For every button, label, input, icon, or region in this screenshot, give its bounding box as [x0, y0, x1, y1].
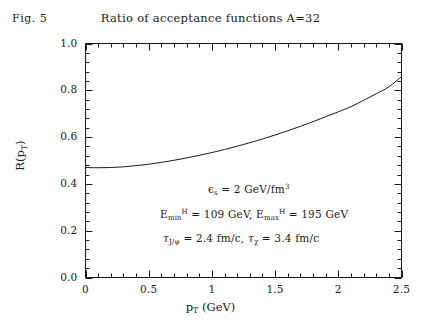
annotation-energy-density: ϵs = 2 GeV/fm3	[208, 182, 290, 197]
y-tick-label: 0.6	[36, 130, 78, 142]
annotation-energy-range: EminH = 109 GeV, EmaxH = 195 GeV	[160, 207, 348, 222]
y-tick-label: 0.2	[36, 224, 78, 236]
x-axis-label: pT (GeV)	[0, 300, 421, 315]
y-axis-label: R(pT)	[13, 121, 28, 191]
x-tick-label: 2	[318, 283, 358, 295]
annotation-emax-symbol: E	[256, 208, 264, 220]
y-axis-label-prefix: R(p	[13, 150, 27, 171]
x-axis-label-prefix: p	[186, 300, 193, 314]
y-axis-label-subscript: T	[20, 145, 29, 150]
annotation-emin-symbol: E	[160, 208, 168, 220]
y-tick-label: 0.8	[36, 83, 78, 95]
y-tick-label: 0.4	[36, 177, 78, 189]
x-tick-label: 1.5	[255, 283, 295, 295]
x-tick-label: 1	[192, 283, 232, 295]
annotation-epsilon-exponent: 3	[285, 182, 290, 191]
annotation-emax-value: = 195 GeV	[285, 208, 348, 220]
annotation-tau-chi-value: = 3.4 fm/c	[258, 232, 319, 244]
annotation-tau-jpsi-value: = 2.4 fm/c,	[180, 232, 248, 244]
annotation-tau-jpsi-subscript: J/ψ	[169, 237, 180, 246]
x-tick-label: 0.5	[129, 283, 169, 295]
x-tick-label: 0	[66, 283, 106, 295]
plot-area: 0.00.20.40.60.81.0 00.511.522.5 R(pT) pT…	[0, 0, 421, 324]
annotation-formation-times: τJ/ψ = 2.4 fm/c, τχ = 3.4 fm/c	[163, 232, 319, 246]
y-tick-label: 1.0	[36, 37, 78, 49]
y-tick-label: 0.0	[36, 271, 78, 283]
annotation-emin-value: = 109 GeV,	[188, 208, 256, 220]
annotation-emin-subscript: min	[168, 213, 182, 222]
annotation-epsilon-value: = 2 GeV/fm	[218, 183, 285, 195]
data-curve	[86, 77, 402, 168]
y-axis-label-suffix: )	[13, 140, 27, 145]
x-tick-label: 2.5	[382, 283, 421, 295]
annotation-emax-subscript: max	[264, 213, 279, 222]
x-axis-label-suffix: (GeV)	[198, 300, 235, 314]
